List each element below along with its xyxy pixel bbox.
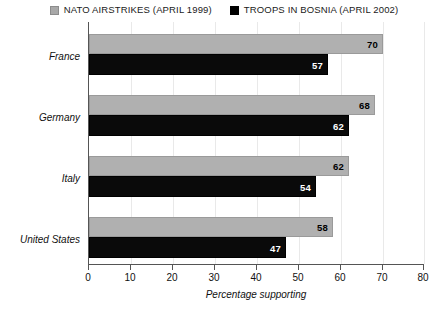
x-tick-0 xyxy=(88,265,89,270)
bar-value-united-states-nato: 58 xyxy=(317,222,328,233)
bar-value-united-states-troops: 47 xyxy=(270,242,281,253)
x-tick-label-60: 60 xyxy=(334,272,345,283)
x-tick-60 xyxy=(340,265,341,270)
bar-united-states-troops: 47 xyxy=(89,237,286,258)
bar-row-france-nato: 70 xyxy=(89,34,424,54)
x-tick-label-80: 80 xyxy=(417,272,428,283)
x-tick-label-30: 30 xyxy=(208,272,219,283)
x-tick-40 xyxy=(256,265,257,270)
bar-value-germany-nato: 68 xyxy=(359,100,370,111)
bar-value-france-nato: 70 xyxy=(367,39,378,50)
x-tick-70 xyxy=(382,265,383,270)
bar-row-italy-troops: 54 xyxy=(89,176,424,197)
bar-row-france-troops: 57 xyxy=(89,54,424,75)
x-tick-label-0: 0 xyxy=(85,272,91,283)
bar-row-germany-troops: 62 xyxy=(89,115,424,136)
bar-row-italy-nato: 62 xyxy=(89,156,424,176)
bar-value-italy-troops: 54 xyxy=(300,181,311,192)
bar-italy-nato: 62 xyxy=(89,156,349,176)
bar-value-france-troops: 57 xyxy=(312,59,323,70)
x-tick-80 xyxy=(423,265,424,270)
bar-united-states-nato: 58 xyxy=(89,217,333,237)
bar-germany-nato: 68 xyxy=(89,95,375,115)
bar-value-germany-troops: 62 xyxy=(333,120,344,131)
category-label-france: France xyxy=(49,51,80,62)
x-axis-tick-labels: 0 10 20 30 40 50 60 70 80 xyxy=(0,272,448,286)
x-axis-title: Percentage supporting xyxy=(88,289,424,300)
bar-row-united-states-troops: 47 xyxy=(89,237,424,258)
x-tick-50 xyxy=(298,265,299,270)
legend-swatch-icon-nato xyxy=(50,6,59,15)
x-axis-ticks xyxy=(88,265,424,271)
x-tick-label-20: 20 xyxy=(166,272,177,283)
x-tick-10 xyxy=(130,265,131,270)
bar-france-troops: 57 xyxy=(89,54,328,75)
gridline-80 xyxy=(424,22,425,264)
x-tick-30 xyxy=(214,265,215,270)
bar-germany-troops: 62 xyxy=(89,115,349,136)
legend-item-nato-airstrikes: NATO AIRSTRIKES (APRIL 1999) xyxy=(50,5,212,15)
category-label-germany: Germany xyxy=(39,112,80,123)
x-tick-label-10: 10 xyxy=(124,272,135,283)
x-tick-label-50: 50 xyxy=(292,272,303,283)
bar-value-italy-nato: 62 xyxy=(333,161,344,172)
plot-area: 70 57 68 62 xyxy=(88,22,424,265)
x-tick-label-70: 70 xyxy=(376,272,387,283)
category-label-united-states: United States xyxy=(20,234,80,245)
category-axis-labels: France Germany Italy United States xyxy=(0,22,84,265)
bar-row-germany-nato: 68 xyxy=(89,95,424,115)
x-tick-label-40: 40 xyxy=(250,272,261,283)
bar-france-nato: 70 xyxy=(89,34,383,54)
legend-swatch-icon-troops xyxy=(230,6,239,15)
chart-legend: NATO AIRSTRIKES (APRIL 1999) TROOPS IN B… xyxy=(0,2,448,18)
category-label-italy: Italy xyxy=(62,173,80,184)
bar-group-france: 70 57 xyxy=(89,34,424,75)
bar-group-united-states: 58 47 xyxy=(89,217,424,258)
bar-row-united-states-nato: 58 xyxy=(89,217,424,237)
bar-groups: 70 57 68 62 xyxy=(89,22,424,264)
bar-group-germany: 68 62 xyxy=(89,95,424,136)
bar-italy-troops: 54 xyxy=(89,176,316,197)
x-tick-20 xyxy=(172,265,173,270)
legend-label-troops: TROOPS IN BOSNIA (APRIL 2002) xyxy=(244,5,398,15)
legend-label-nato: NATO AIRSTRIKES (APRIL 1999) xyxy=(64,5,212,15)
legend-item-troops-bosnia: TROOPS IN BOSNIA (APRIL 2002) xyxy=(230,5,398,15)
bar-chart: NATO AIRSTRIKES (APRIL 1999) TROOPS IN B… xyxy=(0,0,448,311)
bar-group-italy: 62 54 xyxy=(89,156,424,197)
